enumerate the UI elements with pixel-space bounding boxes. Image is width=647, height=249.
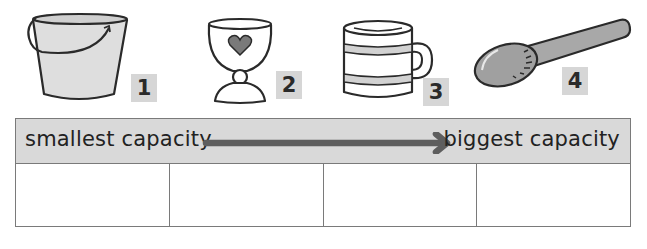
spoon-picture [470,18,635,88]
bucket-icon [24,10,134,105]
answer-cell-2[interactable] [170,164,324,226]
answer-cell-4[interactable] [477,164,630,226]
answer-cell-1[interactable] [16,164,170,226]
spoon-icon [470,18,635,88]
item-number-1: 1 [131,74,157,102]
biggest-capacity-label: biggest capacity [444,127,620,151]
answer-cell-3[interactable] [324,164,478,226]
capacity-ordering-table: smallest capacity biggest capacity [15,118,631,227]
answer-row [16,164,630,226]
item-number-4: 4 [562,67,588,95]
item-number-2: 2 [276,71,302,99]
item-number-3: 3 [423,78,449,106]
egg-cup-icon [205,15,275,105]
egg-cup-picture [205,15,275,105]
bucket-picture [24,10,134,105]
table-header: smallest capacity biggest capacity [16,119,630,164]
smallest-capacity-label: smallest capacity [25,127,212,151]
arrow-right-icon [202,132,457,154]
